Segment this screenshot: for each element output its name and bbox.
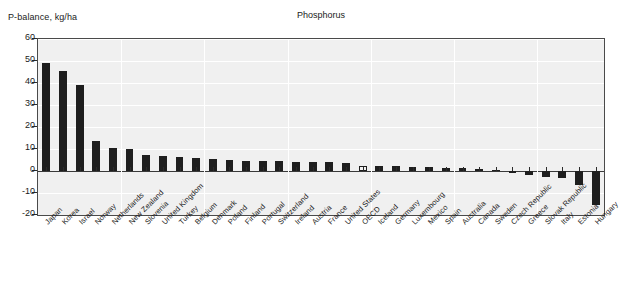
y-tick-label: -10 <box>5 186 35 196</box>
x-tick-mark <box>546 167 547 171</box>
x-tick-mark <box>463 167 464 171</box>
x-tick-mark <box>63 167 64 171</box>
x-tick-mark <box>379 167 380 171</box>
x-tick-mark <box>396 167 397 171</box>
x-tick-mark <box>429 167 430 171</box>
y-tick-label: 20 <box>5 120 35 130</box>
x-tick-mark <box>46 167 47 171</box>
x-tick-mark <box>263 167 264 171</box>
chart-title: Phosphorus <box>36 10 606 20</box>
bar <box>509 171 517 173</box>
x-tick-mark <box>296 167 297 171</box>
bar <box>42 63 50 171</box>
x-tick-mark <box>363 167 364 171</box>
x-tick-mark <box>279 167 280 171</box>
y-tick-label: 60 <box>5 32 35 42</box>
x-tick-mark <box>130 167 131 171</box>
bar <box>76 85 84 171</box>
x-tick-mark <box>180 167 181 171</box>
x-tick-mark <box>562 167 563 171</box>
x-tick-mark <box>196 167 197 171</box>
x-tick-mark <box>146 167 147 171</box>
x-tick-mark <box>479 167 480 171</box>
bar <box>558 171 566 178</box>
y-tick-label: 30 <box>5 98 35 108</box>
x-tick-mark <box>512 167 513 171</box>
x-tick-mark <box>529 167 530 171</box>
x-tick-mark <box>596 167 597 171</box>
x-tick-mark <box>229 167 230 171</box>
x-axis-labels: JapanKoreaIsraelNorwayNetherlandsNew Zea… <box>0 218 623 290</box>
x-tick-mark <box>246 167 247 171</box>
y-tick-label: 10 <box>5 142 35 152</box>
phosphorus-bar-chart: P-balance, kg/ha Phosphorus 605040302010… <box>0 0 623 290</box>
x-tick-mark <box>313 167 314 171</box>
y-tick-label: -20 <box>5 208 35 218</box>
bars-layer <box>38 39 604 215</box>
plot-area <box>37 38 605 216</box>
bar <box>59 71 67 171</box>
x-tick-mark <box>213 167 214 171</box>
bar <box>525 171 533 175</box>
x-tick-mark <box>80 167 81 171</box>
x-tick-mark <box>96 167 97 171</box>
y-tick-label: 50 <box>5 54 35 64</box>
x-tick-mark <box>413 167 414 171</box>
x-tick-mark <box>113 167 114 171</box>
x-tick-mark <box>579 167 580 171</box>
x-tick-mark <box>163 167 164 171</box>
bar <box>542 171 550 177</box>
y-tick-label: 0 <box>5 164 35 174</box>
x-tick-mark <box>446 167 447 171</box>
y-tick-label: 40 <box>5 76 35 86</box>
x-tick-mark <box>329 167 330 171</box>
bar <box>592 171 600 205</box>
y-axis-ticks: 6050403020100-10-20 <box>0 38 35 216</box>
x-tick-mark <box>496 167 497 171</box>
x-tick-mark <box>346 167 347 171</box>
